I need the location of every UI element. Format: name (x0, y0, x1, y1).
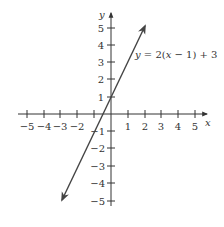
x-tick-label: 3 (158, 121, 164, 132)
y-tick-label: −5 (90, 196, 105, 207)
x-tick-label: 2 (142, 121, 148, 132)
y-tick-label: 5 (98, 23, 104, 34)
coordinate-plane: −5 −4 −3 −2 1 2 3 4 5 5 4 3 2 1 −1 −2 −3… (0, 0, 224, 227)
x-tick-label: 5 (192, 121, 198, 132)
x-tick-label: −2 (70, 121, 85, 132)
y-tick-label: 3 (98, 57, 104, 68)
y-tick-label: 4 (98, 40, 104, 51)
y-axis-label: y (98, 9, 105, 20)
equation-tail: − 1) + 3 (171, 49, 217, 60)
x-tick-label: −3 (53, 121, 68, 132)
x-tick-label: 4 (175, 121, 181, 132)
x-tick-label: −4 (37, 121, 52, 132)
y-tick-label: −4 (90, 178, 105, 189)
y-tick-label: 1 (98, 92, 104, 103)
y-tick-label: −3 (90, 161, 105, 172)
x-axis-label: x (205, 117, 211, 128)
equation-label: y = 2(x − 1) + 3 (134, 49, 217, 60)
function-line (62, 26, 145, 200)
y-tick-label: −2 (90, 143, 105, 154)
equation-mid: = 2( (141, 49, 166, 60)
x-tick-labels: −5 −4 −3 −2 1 2 3 4 5 (20, 121, 199, 132)
x-tick-label: −5 (20, 121, 35, 132)
y-tick-label: 2 (98, 74, 104, 85)
x-tick-label: 1 (125, 121, 131, 132)
